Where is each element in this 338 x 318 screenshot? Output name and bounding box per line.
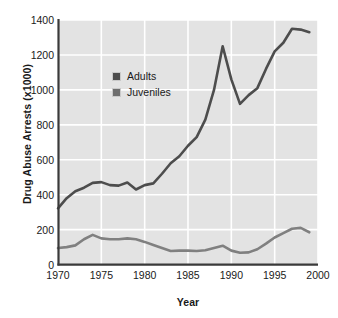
x-tick-label: 1975	[78, 270, 124, 281]
x-tick-label: 1970	[35, 270, 81, 281]
legend-item: Juveniles	[112, 85, 198, 100]
x-tick-label: 1985	[165, 270, 211, 281]
legend-swatch-icon	[112, 88, 121, 97]
x-axis-title: Year	[58, 296, 318, 308]
chart-legend: AdultsJuveniles	[112, 69, 198, 101]
legend-item: Adults	[112, 69, 198, 84]
x-tick-label: 1990	[208, 270, 254, 281]
x-tick-label: 2000	[295, 270, 338, 281]
x-tick-label: 1995	[252, 270, 298, 281]
drug-abuse-arrests-line-chart: Drug Abuse Arrests (x1000) 0200400600800…	[0, 0, 338, 318]
legend-swatch-icon	[112, 72, 121, 81]
x-axis-tick-labels: 1970197519801985199019952000	[0, 0, 338, 318]
legend-label: Juveniles	[127, 87, 171, 98]
legend-label: Adults	[127, 71, 156, 82]
x-tick-label: 1980	[122, 270, 168, 281]
